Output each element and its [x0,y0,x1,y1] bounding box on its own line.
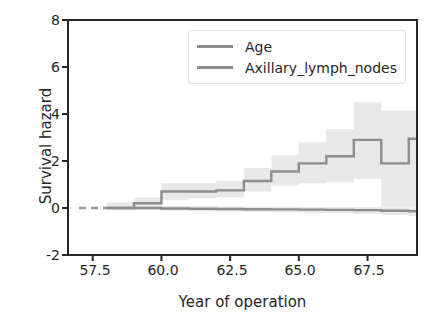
x-axis-label: Year of operation [68,293,417,311]
legend-entry-age[interactable]: Age [197,36,397,57]
legend-entry-axillary-lymph-nodes[interactable]: Axillary_lymph_nodes [197,57,397,78]
chart-figure: 8 6 4 2 0 -2 57.5 60.0 62.5 65.0 67.5 Su… [0,0,433,323]
legend-label-age: Age [245,39,272,55]
xtick-label-67-5: 67.5 [353,262,384,278]
xtick-label-62-5: 62.5 [216,262,247,278]
chart-legend: Age Axillary_lymph_nodes [188,30,406,84]
xtick-label-60-0: 60.0 [147,262,178,278]
legend-label-axillary-lymph-nodes: Axillary_lymph_nodes [245,60,397,76]
y-axis-label: Survival hazard [37,46,55,246]
legend-swatch-age [197,45,233,48]
xtick-label-65-0: 65.0 [284,262,315,278]
ytick-label-neg2: -2 [30,247,60,263]
ytick-label-8: 8 [36,12,60,28]
xtick-label-57-5: 57.5 [79,262,110,278]
legend-swatch-axillary-lymph-nodes [197,66,233,69]
